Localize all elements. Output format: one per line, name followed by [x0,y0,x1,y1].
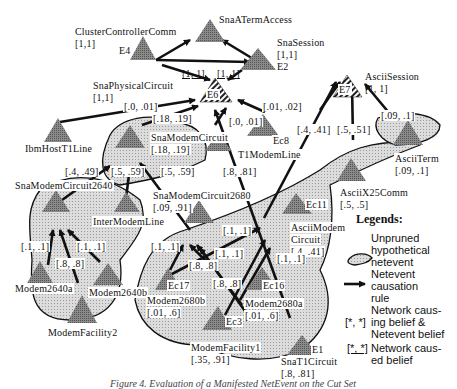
edge-label-e2-e6: [1, 1] [216,68,241,79]
label-sna-physical-circuit: SnaPhysicalCircuit [92,80,174,91]
tag-e7: E7 [338,84,352,95]
legend-item-region-line2: hypothetical [371,244,430,256]
label-modem-2640a: Modem2640a [14,283,74,294]
label-inter-modem-line: InterModemLine [92,216,165,227]
tag-ec11: Ec11 [305,199,328,210]
legend-item-region-line3: netevent [371,256,413,268]
belief-ascii-term: [.09, .1] [394,165,429,176]
label-ascii-term: AsciiTerm [394,153,440,164]
legend-title: Legends: [356,212,403,227]
label-cluster-controller-comm: ClusterControllerComm [74,26,177,37]
edge-label-t1circ-e6: [.8, .81] [222,166,257,177]
label-sna-modem-circuit-2640: SnaModemCircuit2640 [14,180,114,191]
edge-label-2640b: [.1, .1] [76,241,106,252]
tag-ec8: Ec8 [272,135,290,146]
tag-e4: E4 [118,45,132,56]
edge-label-e4-e6: [1, 1] [181,68,206,79]
tag-e2: E2 [276,61,290,72]
edge-label-ec16-amc: [.1, .1] [276,253,306,264]
edge-label-ec11-e7: [.4, .41] [296,124,331,135]
edge-label-ec8-e6: [.01, .02] [262,101,303,112]
edge-label-t1-e6: [.0, .01] [228,116,263,127]
label-ibm-host-t1-line: IbmHostT1Line [24,143,93,154]
edge-label-2640a: [.1, .1] [20,241,50,252]
edge-label-ec17-2680: [.1, .1] [150,241,180,252]
edge-label-ec17-amc: [.1, .1] [214,248,244,259]
label-ascii-session: AsciiSession [364,71,420,82]
edge-label-2640-mc: [.4, .49] [64,166,99,177]
belief-modem-2680a: [.01, .6] [244,310,279,321]
label-modem-2680b: Modem2680b [146,295,206,306]
label-sna-t1-circuit: SnaT1Circuit [280,356,338,367]
edge-label-modem-e6: [.18, .19] [152,113,193,124]
belief-cluster-controller-comm: [1,1] [74,38,96,49]
edge-label-2680-mc: [.5, .59] [160,166,195,177]
legend-item-caused-line1: Network caus- [371,342,441,354]
edge-label-iml-mc: [.5, .59] [110,166,145,177]
belief-ascii-x25-comm: [.5, .5] [339,199,369,210]
legend-item-region-line1: Unpruned [371,232,419,244]
belief-sna-modem-circuit: [.18, .19] [150,144,191,155]
legend-item-arrow-line1: Netevent [371,268,415,280]
label-t1-modem-line: T1ModemLine [237,149,302,160]
legend-item-causing-line3: Netevent belief [371,328,444,340]
label-modem-2640b: Modem2640b [88,287,148,298]
edge-label-term-e7: [.09, .1] [380,110,415,121]
belief-sna-physical-circuit: [1,1] [92,92,114,103]
edge-label-x25-e7: [.5, .51] [336,124,371,135]
tag-e6: E6 [206,89,220,100]
label-sna-aterm-access: SnaATermAccess [218,14,293,25]
figure-canvas: ClusterControllerComm [1,1] E4 SnaATermA… [0,0,457,389]
legend-item-arrow-line2: causation [371,280,418,292]
label-modem-facility2: ModemFacility2 [47,327,118,338]
label-sna-modem-circuit-2680: SnaModemCircuit2680 [152,190,252,201]
tag-ec17: Ec17 [167,280,190,291]
triangle-cluster-controller [130,36,156,60]
label-sna-modem-circuit: SnaModemCircuit [150,132,229,143]
legend-item-causing-line1: Network caus- [371,304,441,316]
belief-ascii-session: [1, 1] [364,83,389,94]
tag-ec16: Ec16 [262,280,285,291]
triangle-sna-session [240,48,276,70]
edge-label-ec16-2680: [.1, .1] [222,225,252,236]
legend-item-arrow-line3: rule [371,292,389,304]
label-ascii-modem-circuit-2: Circuit [290,234,321,245]
legend-symbol-causing-belief: [*, *] [345,316,366,328]
label-modem-facility1: ModemFacility1 [190,342,261,353]
figure-caption: Figure 4. Evaluation of a Manifested Net… [110,378,356,389]
edge-label-mf1-2680b: [.8, .8] [212,278,242,289]
tag-ec3: Ec3 [225,316,243,327]
label-sna-session: SnaSession [276,37,326,48]
legend-item-caused-line2: ed belief [371,354,413,366]
label-ascii-x25-comm: AsciiX25Comm [339,187,409,198]
belief-sna-modem-circuit-2680: [.09, .91] [152,202,193,213]
edge-label-ibm-e6: [.0, .01] [123,101,158,112]
legend-symbol-caused-belief: [*, *] [347,342,368,354]
belief-modem-2680b: [.01, .6] [146,307,181,318]
belief-sna-session: [1,1] [276,49,298,60]
label-modem-2680a: Modem2680a [244,298,304,309]
legend-region-icon [348,254,372,265]
legend-item-causing-line2: ing belief & [371,316,425,328]
tag-e1: E1 [311,344,325,355]
edge-label-mf1-2680: [.8, .8] [188,260,218,271]
edge-label-mf2: [.8, .8] [55,258,85,269]
belief-modem-facility1: [.35, .91] [190,354,231,365]
label-ascii-modem-circuit-1: AsciiModem [290,222,346,233]
